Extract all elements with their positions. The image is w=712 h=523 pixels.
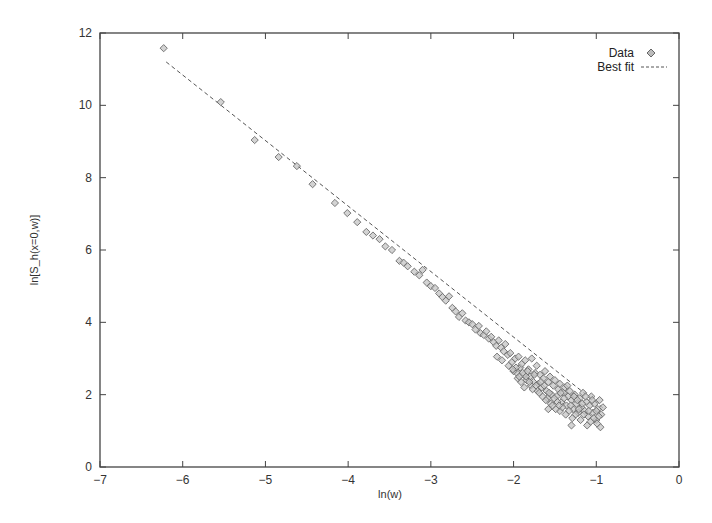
data-point — [160, 45, 167, 52]
data-point — [344, 210, 351, 217]
data-point — [376, 236, 383, 243]
x-tick-label: −7 — [93, 473, 107, 487]
y-tick-label: 4 — [85, 315, 92, 329]
data-point — [382, 243, 389, 250]
y-tick-label: 0 — [85, 460, 92, 474]
data-point — [251, 136, 258, 143]
data-point — [331, 199, 338, 206]
legend-label-best-fit: Best fit — [597, 60, 634, 74]
data-point — [275, 153, 282, 160]
x-tick-label: −6 — [176, 473, 190, 487]
x-tick-label: −5 — [259, 473, 273, 487]
data-point — [309, 181, 316, 188]
y-tick-label: 10 — [79, 98, 93, 112]
y-tick-label: 6 — [85, 243, 92, 257]
y-tick-label: 8 — [85, 171, 92, 185]
x-tick-label: −1 — [589, 473, 603, 487]
y-axis-label: ln[S_h(x=0,w)] — [28, 215, 40, 286]
chart: −7−6−5−4−3−2−10 024681012 ln(w) ln[S_h(x… — [0, 0, 712, 523]
data-point — [217, 98, 224, 105]
x-axis-label: ln(w) — [378, 488, 402, 500]
diamond-marker-icon — [647, 49, 655, 57]
x-tick-label: −3 — [424, 473, 438, 487]
data-point — [568, 422, 575, 429]
data-point — [388, 246, 395, 253]
best-fit-line — [166, 62, 604, 409]
y-tick-label: 12 — [79, 26, 93, 40]
legend-label-data: Data — [609, 46, 635, 60]
legend: Data Best fit — [597, 46, 667, 74]
data-point — [354, 219, 361, 226]
data-point — [533, 362, 540, 369]
data-point — [369, 232, 376, 239]
data-points — [160, 45, 606, 431]
data-point — [528, 355, 535, 362]
x-tick-label: 0 — [676, 473, 683, 487]
x-tick-label: −4 — [341, 473, 355, 487]
x-tick-label: −2 — [507, 473, 521, 487]
data-point — [363, 228, 370, 235]
y-tick-label: 2 — [85, 388, 92, 402]
best-fit-segment — [166, 62, 604, 409]
